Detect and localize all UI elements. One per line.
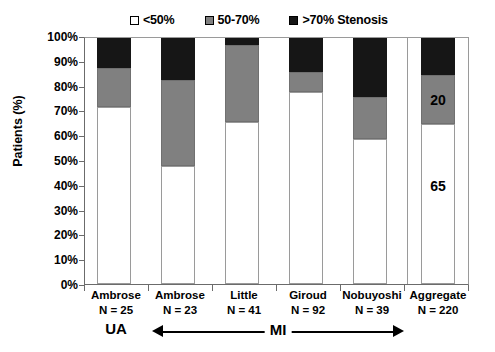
arrow-right-icon <box>393 325 404 337</box>
bar-giroud-92[interactable] <box>289 38 323 284</box>
segment-50-70 <box>225 45 259 121</box>
group-label-mi: MI <box>265 321 292 338</box>
x-label-n: N = 23 <box>148 303 212 318</box>
x-label-little-41: Little N = 41 <box>212 288 276 318</box>
legend-swatch-black-icon <box>289 16 298 25</box>
segment-50-70: 20 <box>421 75 455 124</box>
x-label-name: Nobuyoshi <box>342 289 401 301</box>
bar-little-41[interactable] <box>225 38 259 284</box>
legend-label-50-70: 50-70% <box>218 13 260 27</box>
y-tick-100: 100% <box>28 30 78 44</box>
x-label-n: N = 39 <box>338 303 406 318</box>
legend-label-over-70: >70% Stenosis <box>302 13 387 27</box>
x-label-n: N = 92 <box>276 303 340 318</box>
segment-under-50: 65 <box>421 124 455 284</box>
x-label-name: Little <box>230 289 257 301</box>
group-span-mi: MI <box>152 322 404 342</box>
y-tick-50: 50% <box>28 154 78 168</box>
legend-item-under-50: <50% <box>130 13 175 27</box>
x-label-ambrose-25: Ambrose N = 25 <box>84 288 148 318</box>
x-label-giroud-92: Giroud N = 92 <box>276 288 340 318</box>
data-label-aggregate-50-70: 20 <box>430 93 446 107</box>
segment-over-70 <box>161 38 195 80</box>
x-label-n: N = 41 <box>212 303 276 318</box>
legend-item-over-70: >70% Stenosis <box>289 13 387 27</box>
bar-ambrose-25[interactable] <box>97 38 131 284</box>
segment-over-70 <box>353 38 387 97</box>
x-label-name: Giroud <box>289 289 327 301</box>
x-label-name: Ambrose <box>91 289 141 301</box>
x-label-n: N = 220 <box>405 303 471 318</box>
group-annotations: UA MI <box>84 320 469 346</box>
bar-ambrose-23[interactable] <box>161 38 195 284</box>
segment-50-70 <box>161 80 195 166</box>
segment-over-70 <box>421 38 455 75</box>
x-label-ambrose-23: Ambrose N = 23 <box>148 288 212 318</box>
x-label-n: N = 25 <box>84 303 148 318</box>
y-tick-10: 10% <box>28 253 78 267</box>
x-label-name: Aggregate <box>410 289 467 301</box>
legend-swatch-gray-icon <box>205 16 214 25</box>
aggregate-separator <box>407 38 408 284</box>
chart-legend: <50% 50-70% >70% Stenosis <box>130 11 450 29</box>
bar-aggregate-220[interactable]: 20 65 <box>421 38 455 284</box>
segment-50-70 <box>289 72 323 92</box>
y-axis-title: Patients (%) <box>11 61 25 201</box>
legend-item-50-70: 50-70% <box>205 13 260 27</box>
y-tick-60: 60% <box>28 129 78 143</box>
bar-nobuyoshi-39[interactable] <box>353 38 387 284</box>
plot-area: 20 65 <box>84 37 469 285</box>
segment-over-70 <box>97 38 131 68</box>
y-tick-20: 20% <box>28 228 78 242</box>
y-tick-30: 30% <box>28 204 78 218</box>
y-axis-tick-labels: 100% 90% 80% 70% 60% 50% 40% 30% 20% 10%… <box>28 37 78 285</box>
segment-under-50 <box>225 122 259 284</box>
y-tick-70: 70% <box>28 104 78 118</box>
segment-over-70 <box>289 38 323 72</box>
y-tick-90: 90% <box>28 55 78 69</box>
segment-under-50 <box>161 166 195 284</box>
segment-50-70 <box>353 97 387 139</box>
data-label-aggregate-under-50: 65 <box>430 179 446 193</box>
legend-swatch-white-icon <box>130 16 139 25</box>
segment-under-50 <box>353 139 387 284</box>
x-label-aggregate-220: Aggregate N = 220 <box>405 288 471 318</box>
x-label-name: Ambrose <box>155 289 205 301</box>
segment-50-70 <box>97 68 131 107</box>
x-axis-labels: Ambrose N = 25 Ambrose N = 23 Little N =… <box>84 288 469 322</box>
bar-group: 20 65 <box>85 38 468 284</box>
y-tick-80: 80% <box>28 80 78 94</box>
y-tick-0: 0% <box>28 278 78 292</box>
stacked-bar-chart: <50% 50-70% >70% Stenosis Patients (%) 1… <box>0 0 495 352</box>
x-label-nobuyoshi-39: Nobuyoshi N = 39 <box>338 288 406 318</box>
segment-under-50 <box>97 107 131 284</box>
y-tick-40: 40% <box>28 179 78 193</box>
segment-over-70 <box>225 38 259 45</box>
legend-label-under-50: <50% <box>143 13 175 27</box>
segment-under-50 <box>289 92 323 284</box>
group-label-ua: UA <box>84 320 148 337</box>
